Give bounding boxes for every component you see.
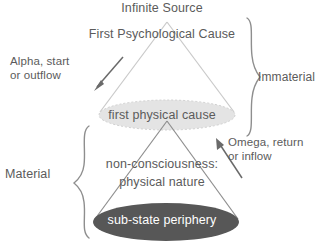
label-alpha-start-or-outflow: Alpha, start or outflow [10,55,115,82]
label-sub-state-periphery: sub-state periphery [0,213,324,228]
label-omega-return-or-inflow: Omega, return or inflow [228,136,324,163]
label-infinite-source: Infinite Source [0,1,324,16]
label-first-physical-cause: first physical cause [0,108,324,123]
diagram-canvas: Infinite Source First Psychological Caus… [0,0,324,248]
label-first-psychological-cause: First Psychological Cause [0,27,324,42]
label-physical-nature: physical nature [0,175,324,190]
label-immaterial: Immaterial [258,70,324,84]
